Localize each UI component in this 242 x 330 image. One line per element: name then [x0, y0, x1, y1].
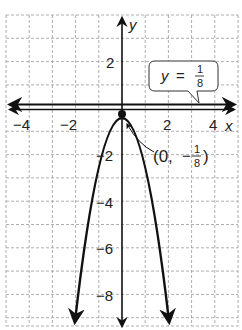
- callout-equals: =: [176, 67, 185, 84]
- x-tick-label: −2: [60, 116, 77, 133]
- x-axis-label: x: [224, 117, 233, 134]
- directrix-callout: y = 1 8: [149, 61, 218, 103]
- x-tick-label: 2: [163, 116, 171, 133]
- focus-denominator: 8: [194, 157, 200, 169]
- y-axis-label: y: [128, 16, 138, 33]
- x-tick-label: 4: [209, 116, 217, 133]
- focus-minus: −: [182, 147, 191, 164]
- focus-close: ): [203, 147, 209, 166]
- callout-numerator: 1: [197, 63, 203, 75]
- y-tick-label: −6: [96, 240, 113, 257]
- focus-open: (0,: [153, 147, 173, 166]
- parabola-graph: −4 −2 2 4 x 2 −2 −4 −6 −8 y y = 1 8 (0, …: [0, 0, 242, 330]
- y-tick-label: −8: [96, 287, 113, 304]
- y-tick-label: 2: [106, 54, 114, 71]
- y-tick-label: −2: [96, 147, 113, 164]
- callout-denominator: 8: [197, 77, 203, 89]
- focus-numerator: 1: [194, 143, 200, 155]
- y-tick-label: −4: [96, 194, 113, 211]
- focus-point: [118, 110, 126, 118]
- x-tick-label: −4: [13, 116, 30, 133]
